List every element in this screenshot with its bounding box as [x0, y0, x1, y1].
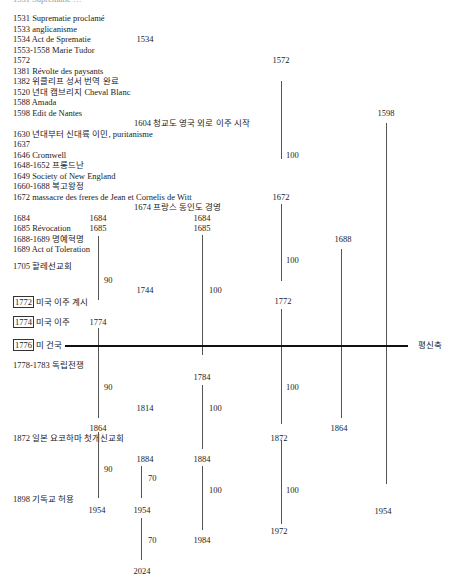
event-item: 1674 프랑스 동인도 경영: [134, 202, 221, 212]
boxed-year: 1772: [13, 296, 34, 308]
year-marker: 1984: [194, 535, 211, 545]
year-marker: 1598: [378, 108, 395, 118]
event-item: 1689 Act of Toleration: [13, 244, 90, 254]
period-line: [141, 466, 142, 498]
duration-label: 70: [148, 535, 157, 545]
period-line: [141, 518, 142, 560]
event-item: 1534 Act de Sprematie: [13, 34, 91, 44]
duration-label: 100: [286, 382, 299, 392]
event-item: 1672 massacre des freres de Jean et Corn…: [13, 192, 192, 202]
event-item: 1774 미국 이주: [13, 317, 70, 327]
year-marker: 1684: [194, 213, 211, 223]
event-item: 1630 년대부터 신대륙 이민, puritanisme: [13, 129, 153, 139]
event-item: 1637: [13, 139, 30, 149]
event-item: 1646 Cromwell: [13, 150, 66, 160]
event-item: 1598 Edit de Nantes: [13, 108, 82, 118]
year-marker: 1774: [90, 317, 107, 327]
period-line: [341, 249, 342, 418]
period-line: [98, 236, 99, 300]
duration-label: 100: [209, 485, 222, 495]
year-marker: 1814: [137, 403, 154, 413]
boxed-year: 1774: [13, 316, 34, 328]
period-line: [98, 328, 99, 418]
year-marker: 1954: [134, 505, 151, 515]
duration-label: 70: [148, 473, 157, 483]
event-item: 1533 anglicanisme: [13, 24, 77, 34]
event-item: 1382 위클리프 성서 번역 완료: [13, 76, 119, 86]
event-item: 1649 Society of New England: [13, 171, 115, 181]
event-item: 1660-1688 복고왕정: [13, 181, 84, 191]
truncated-header: 1531 Suprematie …: [13, 0, 81, 4]
event-item: 1898 기독교 허용: [13, 494, 74, 504]
event-item: 1776 미 건국: [13, 340, 62, 350]
duration-label: 90: [104, 275, 113, 285]
period-line: [281, 204, 282, 281]
year-marker: 1685: [90, 223, 107, 233]
year-marker: 1672: [273, 192, 290, 202]
period-line: [281, 440, 282, 524]
boxed-year: 1776: [13, 339, 34, 351]
period-line: [281, 309, 282, 424]
event-item: 1531 Suprematie proclamé: [13, 13, 105, 23]
year-marker: 1954: [375, 506, 392, 516]
main-axis-line: [65, 345, 408, 347]
event-item: 1553-1558 Marie Tudor: [13, 45, 95, 55]
year-marker: 1685: [194, 223, 211, 233]
duration-label: 90: [104, 382, 113, 392]
event-item: 1778-1783 독립전쟁: [13, 360, 84, 370]
duration-label: 100: [286, 150, 299, 160]
duration-label: 100: [286, 485, 299, 495]
period-line: [98, 432, 99, 498]
event-item: 1685 Révocation: [13, 223, 71, 233]
year-marker: 1884: [137, 454, 154, 464]
year-marker: 1684: [90, 213, 107, 223]
event-item: 1705 할레선교회: [13, 261, 72, 271]
event-item: 1684: [13, 213, 30, 223]
period-line: [386, 123, 387, 484]
duration-label: 100: [209, 285, 222, 295]
event-item: 1648-1652 프롱드난: [13, 160, 84, 170]
year-marker: 1572: [273, 55, 290, 65]
period-line: [202, 235, 203, 355]
event-item: 1381 Révolte des paysants: [13, 66, 103, 76]
year-marker: 2024: [134, 566, 151, 576]
event-item: 1688-1689 명예혁명: [13, 234, 84, 244]
event-item: 1872 일본 요코하마 첫개신교회: [13, 433, 124, 443]
year-marker: 1954: [89, 505, 106, 515]
axis-label: 평신축: [418, 340, 442, 350]
year-marker: 1872: [271, 433, 288, 443]
event-item: 1588 Amada: [13, 97, 56, 107]
year-marker: 1772: [275, 296, 292, 306]
event-item: 1572: [13, 55, 30, 65]
year-marker: 1972: [271, 526, 288, 536]
period-line: [281, 81, 282, 159]
year-marker: 1864: [331, 423, 348, 433]
year-marker: 1744: [137, 285, 154, 295]
year-marker: 1784: [194, 372, 211, 382]
year-marker: 1884: [194, 454, 211, 464]
period-line: [202, 385, 203, 449]
period-line: [202, 466, 203, 530]
event-item: 1772 미국 이주 계시: [13, 297, 88, 307]
duration-label: 100: [286, 255, 299, 265]
year-marker: 1688: [335, 234, 352, 244]
duration-label: 90: [104, 464, 113, 474]
duration-label: 100: [209, 403, 222, 413]
year-marker: 1534: [137, 34, 154, 44]
event-item: 1520 년대 캠브리지 Cheval Blanc: [13, 87, 130, 97]
event-item: 1604 청교도 영국 외로 이주 시작: [134, 118, 250, 128]
